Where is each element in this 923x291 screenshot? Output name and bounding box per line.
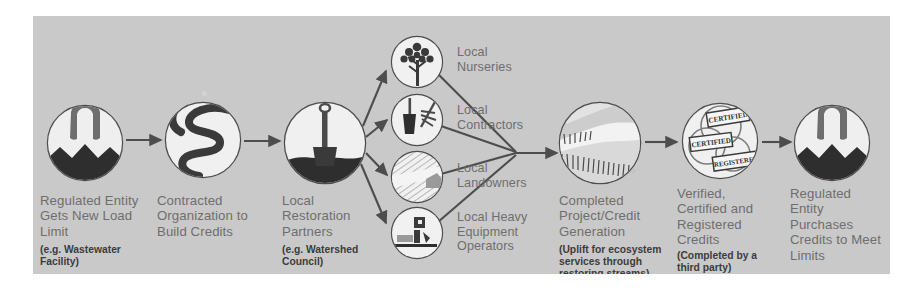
node-sublabel-verified-certified-registered-credits: (Completed by a third party)	[677, 250, 785, 274]
branch-label-local-heavy-equipment-operators: Local Heavy Equipment Operators	[457, 210, 555, 254]
node-label-completed-project-credit-generation: Completed Project/Credit Generation	[559, 193, 679, 239]
node-completed-project-credit-generation-icon	[560, 103, 640, 183]
node-sublabel-local-restoration-partners: (e.g. Watershed Council)	[282, 244, 392, 268]
branch-label-local-landowners: Local Landowners	[457, 161, 555, 190]
diagram-canvas: CERTIFIED CERTIFIED REGISTERED	[0, 0, 923, 291]
branch-local-contractors-icon	[392, 95, 442, 145]
branch-local-heavy-equipment-operators-icon	[392, 208, 442, 258]
node-label-contracted-organization: Contracted Organization to Build Credits	[157, 193, 279, 239]
node-label-local-restoration-partners: Local Restoration Partners	[282, 193, 390, 239]
branch-label-local-nurseries: Local Nurseries	[457, 45, 549, 74]
arrow-3-to-contractors	[366, 120, 387, 137]
node-regulated-entity-load-limit-icon	[48, 100, 122, 182]
node-sublabel-completed-project-credit-generation: (Uplift for ecosystem services through r…	[559, 244, 687, 274]
diagram-panel: CERTIFIED CERTIFIED REGISTERED	[33, 16, 890, 274]
node-local-restoration-partners-icon	[285, 103, 365, 186]
arrow-3-to-landowners	[366, 153, 387, 175]
branch-label-local-contractors: Local Contractors	[457, 103, 555, 132]
branch-local-landowners-icon	[392, 152, 442, 202]
node-regulated-entity-purchases-credits-icon	[795, 100, 869, 182]
node-verified-certified-registered-credits-icon: CERTIFIED CERTIFIED REGISTERED	[683, 104, 760, 178]
node-sublabel-regulated-entity-load-limit: (e.g. Wastewater Facility)	[40, 244, 158, 268]
node-contracted-organization-icon	[166, 103, 240, 177]
node-label-verified-certified-registered-credits: Verified, Certified and Registered Credi…	[677, 186, 781, 248]
branch-local-nurseries-icon	[392, 37, 442, 87]
arrow-3-to-nurseries	[363, 71, 386, 126]
node-label-regulated-entity-load-limit: Regulated Entity Gets New Load Limit	[40, 193, 156, 239]
node-label-regulated-entity-purchases-credits: Regulated Entity Purchases Credits to Me…	[790, 186, 890, 263]
